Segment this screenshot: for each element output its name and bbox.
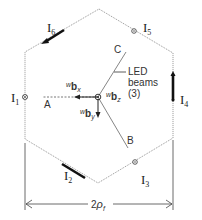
diagram-canvas: I6 I5 I1 I4 I2 I3 A B C LED beams (3) wb… [0, 0, 202, 220]
label-i6: I6 [47, 20, 55, 37]
beam-label-b: B [127, 135, 134, 146]
beam-label-c: C [114, 44, 121, 55]
beam-b [98, 97, 128, 148]
dimension-label: 2ρf [91, 198, 106, 212]
current-i3-symbol-icon [133, 160, 138, 165]
vector-bx [74, 95, 97, 100]
label-i4: I4 [180, 92, 188, 109]
current-i1-symbol-icon [23, 95, 28, 100]
label-i1: I1 [11, 90, 19, 107]
vector-by-label: wby [80, 108, 95, 121]
label-i3: I3 [141, 172, 149, 189]
vector-bz-label: wbz [106, 91, 121, 103]
beam-label-a: A [44, 99, 51, 110]
vector-by [96, 99, 101, 118]
vector-bx-label: wbx [66, 81, 81, 93]
led-beams-label: LED beams (3) [128, 66, 161, 99]
current-i4-arrow-icon [171, 71, 176, 102]
label-i5: I5 [143, 20, 151, 37]
current-i5-symbol-icon [132, 29, 137, 34]
